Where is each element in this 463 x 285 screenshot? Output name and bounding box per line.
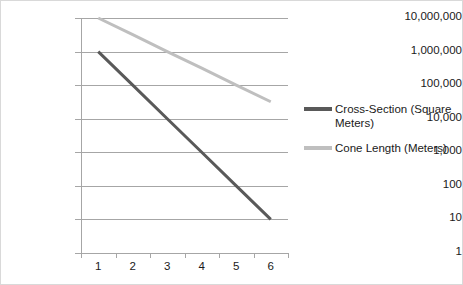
y-axis-label: 100 xyxy=(390,178,462,190)
x-axis-tick xyxy=(116,253,117,258)
legend-label-cone-length: Cone Length (Meters) xyxy=(335,141,447,155)
legend-swatch-cone-length-icon xyxy=(304,146,332,150)
legend-item-cone-length[interactable]: Cone Length (Meters) xyxy=(304,141,460,155)
x-axis-label: 4 xyxy=(190,260,214,272)
x-axis-label: 6 xyxy=(259,260,283,272)
y-axis-label: 10 xyxy=(390,211,462,223)
y-axis-label: 10,000,000 xyxy=(390,10,462,22)
gridline xyxy=(81,18,288,19)
x-axis-label: 1 xyxy=(86,260,110,272)
gridline xyxy=(81,119,288,120)
legend-item-cross-section[interactable]: Cross-Section (Square Meters) xyxy=(304,102,460,130)
x-axis-label: 5 xyxy=(224,260,248,272)
legend-swatch-cross-section-icon xyxy=(304,107,332,111)
x-axis-label: 2 xyxy=(121,260,145,272)
x-axis-tick xyxy=(219,253,220,258)
y-axis-label: 100,000 xyxy=(390,77,462,89)
x-axis-label: 3 xyxy=(155,260,179,272)
gridline xyxy=(81,52,288,53)
gridline xyxy=(81,152,288,153)
x-axis-tick xyxy=(288,253,289,258)
y-axis-label: 1,000,000 xyxy=(390,44,462,56)
y-axis-label: 1 xyxy=(390,245,462,257)
x-axis-tick xyxy=(150,253,151,258)
chart-frame: 10,000,0001,000,000100,00010,0001,000100… xyxy=(0,0,463,285)
chart-legend: Cross-Section (Square Meters) Cone Lengt… xyxy=(304,102,460,166)
plot-area xyxy=(81,18,288,253)
gridline xyxy=(81,85,288,86)
gridline xyxy=(81,219,288,220)
x-axis-tick xyxy=(81,253,82,258)
gridline xyxy=(81,186,288,187)
legend-label-cross-section: Cross-Section (Square Meters) xyxy=(335,102,460,130)
x-axis-tick xyxy=(254,253,255,258)
x-axis-tick xyxy=(185,253,186,258)
